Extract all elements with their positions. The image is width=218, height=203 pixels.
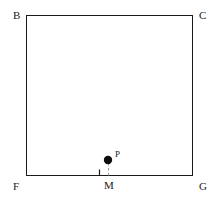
point-p-dot <box>104 156 112 164</box>
point-label-p: P <box>115 150 120 159</box>
vertex-label-g: G <box>199 181 207 192</box>
geometry-canvas <box>0 0 218 203</box>
right-angle-marker-at-m <box>100 170 107 176</box>
point-label-m: M <box>104 180 114 191</box>
vertex-label-b: B <box>13 10 20 21</box>
vertex-label-f: F <box>13 181 19 192</box>
vertex-label-c: C <box>199 10 206 21</box>
rectangle-bcgf <box>27 16 193 176</box>
geometry-diagram: B C F G P M <box>0 0 218 203</box>
